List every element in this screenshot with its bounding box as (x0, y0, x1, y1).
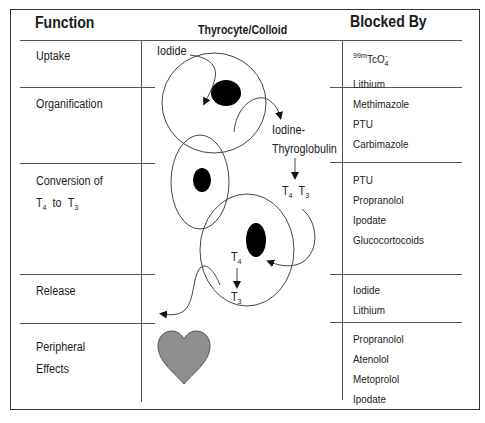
t4-sub: 4 (238, 257, 242, 266)
t3-sub: 3 (238, 297, 242, 306)
nucleus-middle (193, 168, 211, 192)
label-iodine-line1: Iodine- (272, 123, 305, 137)
label-t4-t3-colloid: T4 T3 (282, 184, 309, 200)
t4-sub: 4 (289, 191, 293, 200)
label-t4-inner: T4 (231, 250, 242, 266)
release-arrow (163, 266, 220, 315)
label-iodine-line2: Thyroglobulin (272, 142, 337, 156)
nucleus-bottom (246, 223, 266, 257)
thyrocyte-diagram (0, 0, 485, 423)
heart-icon (158, 331, 210, 384)
t3-sub: 3 (305, 191, 309, 200)
label-iodide: Iodide (157, 44, 186, 58)
label-t3-inner: T3 (231, 290, 242, 306)
nucleus-top (211, 80, 241, 106)
cell-bottom-membrane (200, 194, 294, 306)
